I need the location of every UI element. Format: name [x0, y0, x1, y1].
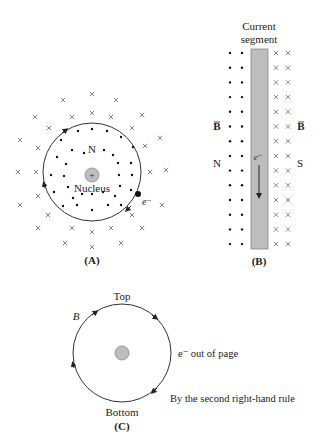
electron-label-b: e⁻: [254, 152, 263, 162]
dot-marker: [241, 228, 243, 230]
cross-marker: [274, 51, 278, 55]
dot-marker: [131, 174, 133, 176]
dot-marker: [91, 128, 93, 130]
dot-marker: [119, 185, 121, 187]
cross-marker: [286, 80, 290, 84]
cross-marker: [148, 170, 152, 174]
cross-marker: [33, 115, 37, 119]
cross-marker: [109, 226, 113, 230]
dot-marker: [120, 136, 122, 138]
dot-marker: [229, 96, 231, 98]
panel-c: Top B e⁻ out of page By the second right…: [73, 290, 296, 433]
cross-marker: [286, 51, 290, 55]
dot-marker: [241, 52, 243, 54]
cross-marker: [274, 139, 278, 143]
dot-marker: [241, 243, 243, 245]
cross-marker: [18, 138, 22, 142]
wire-cross-section: [115, 346, 129, 360]
cross-marker: [286, 154, 290, 158]
cross-marker: [16, 170, 20, 174]
dot-marker: [63, 175, 65, 177]
cross-marker: [286, 183, 290, 187]
cross-marker: [130, 126, 134, 130]
dot-marker: [76, 204, 78, 206]
top-label: Top: [114, 290, 131, 302]
cross-marker: [90, 230, 94, 234]
cross-marker: [34, 170, 38, 174]
cross-marker: [286, 124, 290, 128]
cross-marker: [109, 115, 113, 119]
current-segment: [251, 49, 268, 249]
segment-title-line1: Current: [242, 20, 276, 32]
dot-marker: [229, 111, 231, 113]
dot-marker: [229, 140, 231, 142]
north-pole-label: N: [213, 157, 221, 169]
dot-marker: [241, 214, 243, 216]
dot-marker: [229, 184, 231, 186]
cross-marker: [286, 198, 290, 202]
dot-marker: [229, 67, 231, 69]
panel-a: + Nucleus N e⁻ (A): [16, 92, 168, 267]
figure-canvas: + Nucleus N e⁻ (A) Current segment B B N…: [0, 0, 322, 444]
orbit-arrow-top-icon: [62, 130, 66, 133]
cross-marker: [46, 213, 50, 217]
cross-marker: [274, 110, 278, 114]
segment-title-line2: segment: [241, 33, 278, 45]
cross-marker: [286, 139, 290, 143]
cross-marker: [286, 110, 290, 114]
dot-marker: [50, 174, 52, 176]
cross-marker: [130, 213, 134, 217]
dot-marker: [241, 81, 243, 83]
dot-marker: [56, 156, 58, 158]
dot-marker: [229, 155, 231, 157]
dot-marker: [106, 130, 108, 132]
dot-marker: [241, 155, 243, 157]
dot-marker: [130, 189, 132, 191]
dot-marker: [241, 96, 243, 98]
dot-marker: [53, 191, 55, 193]
cross-marker: [90, 245, 94, 249]
dot-marker: [107, 204, 109, 206]
cross-marker: [18, 203, 22, 207]
cross-marker: [119, 241, 123, 245]
dot-marker: [71, 149, 73, 151]
dot-marker: [120, 204, 122, 206]
cross-marker: [274, 213, 278, 217]
electron-note: e⁻ out of page: [178, 348, 238, 359]
bottom-label: Bottom: [105, 406, 138, 418]
dot-marker: [112, 154, 114, 156]
dot-marker: [241, 169, 243, 171]
cross-marker: [286, 227, 290, 231]
cross-marker: [158, 136, 162, 140]
cross-marker: [286, 213, 290, 217]
dot-marker: [241, 184, 243, 186]
cross-marker: [90, 92, 94, 96]
cross-marker: [286, 168, 290, 172]
loop-arrow-left-icon: [73, 364, 74, 368]
caption-c: (C): [114, 420, 130, 433]
dot-marker: [229, 169, 231, 171]
dot-marker: [241, 125, 243, 127]
dot-marker: [77, 130, 79, 132]
cross-marker: [70, 115, 74, 119]
dot-marker: [241, 67, 243, 69]
cross-marker: [160, 203, 164, 207]
dot-marker: [62, 205, 64, 207]
cross-marker: [61, 98, 65, 102]
dot-marker: [103, 149, 105, 151]
cross-marker: [274, 168, 278, 172]
cross-marker: [274, 242, 278, 246]
cross-marker: [274, 183, 278, 187]
cross-marker: [274, 198, 278, 202]
dot-marker: [241, 111, 243, 113]
cross-marker: [274, 66, 278, 70]
cross-marker: [143, 144, 147, 148]
electron-label: e⁻: [142, 196, 152, 207]
cross-marker: [36, 226, 40, 230]
cross-marker: [140, 113, 144, 117]
cross-marker: [274, 227, 278, 231]
cross-marker: [286, 95, 290, 99]
dot-marker: [72, 197, 74, 199]
caption-b: (B): [252, 255, 267, 268]
dot-marker: [67, 186, 69, 188]
